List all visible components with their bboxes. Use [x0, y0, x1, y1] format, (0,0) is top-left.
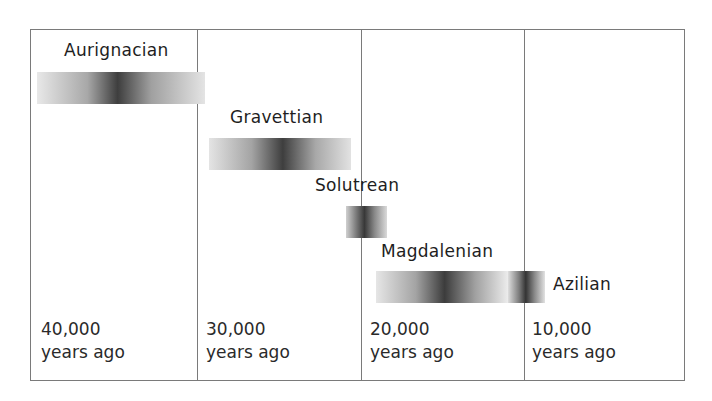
bar-gravettian — [209, 138, 351, 170]
tick-unit: years ago — [206, 341, 290, 364]
bar-magdalenian — [376, 271, 508, 303]
label-magdalenian: Magdalenian — [381, 241, 493, 261]
label-azilian: Azilian — [553, 274, 611, 294]
tick-10000: 10,000 years ago — [532, 318, 616, 364]
bar-solutrean — [346, 206, 387, 238]
tick-value: 10,000 — [532, 318, 616, 341]
tick-value: 30,000 — [206, 318, 290, 341]
label-gravettian: Gravettian — [230, 107, 323, 127]
tick-30000: 30,000 years ago — [206, 318, 290, 364]
tick-value: 40,000 — [41, 318, 125, 341]
tick-unit: years ago — [41, 341, 125, 364]
bar-aurignacian — [37, 72, 205, 104]
tick-40000: 40,000 years ago — [41, 318, 125, 364]
label-solutrean: Solutrean — [315, 175, 399, 195]
label-aurignacian: Aurignacian — [64, 40, 169, 60]
tick-value: 20,000 — [370, 318, 454, 341]
tick-20000: 20,000 years ago — [370, 318, 454, 364]
bar-azilian — [508, 271, 545, 303]
tick-unit: years ago — [370, 341, 454, 364]
gridline-20000 — [361, 29, 362, 381]
gridline-10000 — [524, 29, 525, 381]
tick-unit: years ago — [532, 341, 616, 364]
